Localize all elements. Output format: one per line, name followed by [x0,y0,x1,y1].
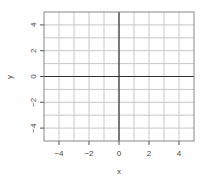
y-tick-label: 2 [29,48,38,53]
y-tick-label: 4 [29,22,38,27]
cartesian-plot: −4−2024 −4−2024 x y [0,0,205,182]
y-tick-label: 0 [29,74,38,79]
x-tick-label: 2 [147,149,152,158]
x-tick-label: 4 [177,149,182,158]
x-tick-label: 0 [117,149,122,158]
x-tick-label: −4 [54,149,64,158]
x-axis-title: x [117,167,121,176]
x-tick-label: −2 [84,149,94,158]
y-tick-label: −2 [29,97,38,107]
y-axis-ticks: −4−2024 [29,22,44,133]
y-tick-label: −4 [29,123,38,133]
x-axis-ticks: −4−2024 [54,141,181,158]
zero-axis-lines [44,12,194,141]
y-axis-title: y [5,75,14,79]
